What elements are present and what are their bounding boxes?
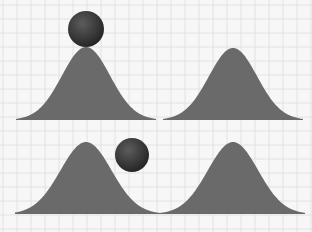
hill-top-right xyxy=(163,48,303,120)
hill-top-left xyxy=(16,47,156,120)
diagram-canvas xyxy=(0,0,312,232)
ball-on-peak xyxy=(68,11,104,47)
diagram-svg xyxy=(0,0,312,232)
ball-on-slope xyxy=(115,138,149,172)
